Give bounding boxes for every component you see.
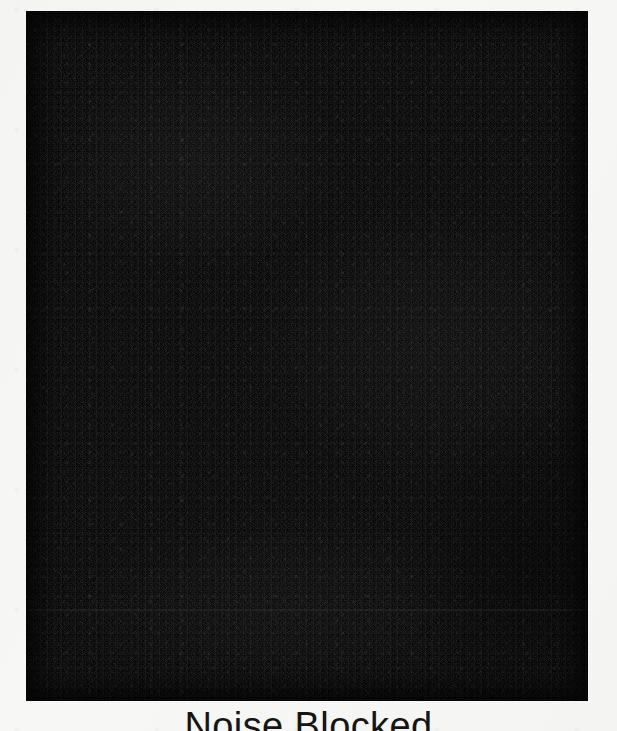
noise-image-plate xyxy=(26,11,588,701)
noise-speckle-layer-3 xyxy=(26,11,588,701)
scan-band-artifact xyxy=(26,609,588,611)
figure-caption: Noise Blocked xyxy=(0,703,617,731)
noise-speckle-layer-2 xyxy=(26,11,588,701)
noise-speckle-layer-1 xyxy=(26,11,588,701)
plate-vignette xyxy=(26,11,588,701)
noise-blotch-layer xyxy=(26,11,588,701)
figure-page: Noise Blocked xyxy=(0,0,617,731)
